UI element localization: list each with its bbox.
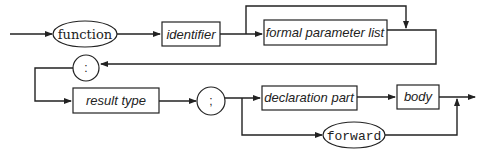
declaration-part-label: declaration part — [264, 90, 355, 105]
colon-label: : — [84, 61, 87, 75]
function-terminal: function — [53, 21, 117, 47]
forward-terminal: forward — [323, 122, 385, 148]
colon-terminal: : — [73, 55, 99, 81]
formal-parameter-list-nonterminal: formal parameter list — [264, 20, 387, 45]
body-nonterminal: body — [397, 85, 439, 109]
identifier-label: identifier — [166, 27, 216, 42]
function-label: function — [58, 27, 113, 42]
semicolon-label: ; — [209, 94, 212, 108]
forward-label: forward — [327, 129, 382, 144]
semicolon-terminal: ; — [197, 87, 225, 115]
formal-parameter-list-label: formal parameter list — [266, 25, 386, 40]
declaration-part-nonterminal: declaration part — [262, 86, 357, 110]
result-type-label: result type — [86, 93, 146, 108]
syntax-diagram: function identifier formal parameter lis… — [0, 0, 484, 157]
arrow-colon-to-result-type — [35, 68, 73, 101]
result-type-nonterminal: result type — [73, 88, 159, 113]
identifier-nonterminal: identifier — [162, 22, 220, 46]
body-label: body — [404, 89, 434, 104]
